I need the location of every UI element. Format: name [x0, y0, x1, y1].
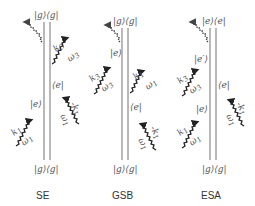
- top-state-label: |e⟩⟨e|: [202, 16, 226, 27]
- diagram-gsb: |g⟩⟨g| |g⟩⟨g| |e⟩ ⟨e| k3 ω3 k1 ω1 -k1 ω1…: [87, 16, 164, 201]
- k1-label: k1: [131, 67, 146, 83]
- signal-wave-icon: [106, 25, 120, 42]
- w1-label: ω1: [143, 76, 160, 93]
- caption-esa: ESA: [201, 190, 221, 201]
- w3-label: ω3: [65, 48, 82, 65]
- right-state-label: ⟨e|: [130, 102, 142, 113]
- w1-right-label: ω1: [223, 112, 239, 128]
- left-state-label: |e⟩: [110, 48, 122, 59]
- w1-right-label: ω1: [135, 136, 151, 152]
- w1-right-label: ω1: [57, 112, 73, 128]
- caption-se: SE: [36, 190, 50, 201]
- signal-wave-icon: [25, 22, 42, 42]
- right-state-label: ⟨e|: [218, 80, 230, 91]
- bottom-state-label: |g⟩⟨g|: [34, 164, 59, 175]
- caption-gsb: GSB: [112, 190, 133, 201]
- left-state-high-label: |e′⟩: [194, 54, 208, 65]
- right-state-label: ⟨e|: [52, 80, 64, 91]
- left-state-label: |e⟩: [30, 99, 42, 110]
- left-state-low-label: |e⟩: [196, 104, 208, 115]
- diagram-esa: |e⟩⟨e| |g⟩⟨g| |e′⟩ |e⟩ ⟨e| k3 ω3 -k1 ω1 …: [175, 16, 250, 201]
- top-state-label: |g⟩⟨g|: [34, 10, 59, 21]
- k1-label: k1: [175, 123, 190, 139]
- diagram-se: |g⟩⟨g| |g⟩⟨g| |e⟩ ⟨e| k3 ω3 -k1 ω1 k1 ω1…: [9, 10, 84, 201]
- bottom-state-label: |g⟩⟨g|: [113, 164, 138, 175]
- feynman-diagrams: |g⟩⟨g| |g⟩⟨g| |e⟩ ⟨e| k3 ω3 -k1 ω1 k1 ω1…: [0, 0, 255, 206]
- top-state-label: |g⟩⟨g|: [113, 16, 138, 27]
- bottom-state-label: |g⟩⟨g|: [202, 164, 227, 175]
